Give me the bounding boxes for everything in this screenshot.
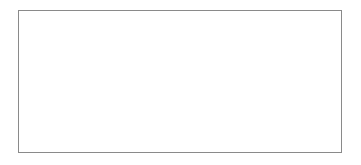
- gauge-canvas: [0, 0, 361, 165]
